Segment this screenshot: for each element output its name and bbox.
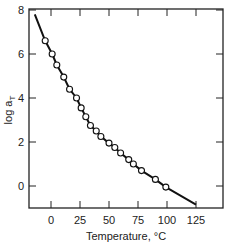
fitted-curve (35, 14, 196, 204)
y-tick-label: 6 (18, 48, 24, 60)
y-axis-label-subscript: T (8, 96, 17, 101)
x-tick-label: 25 (74, 214, 86, 226)
data-point-marker (49, 51, 55, 57)
y-tick-labels: 02468 (18, 4, 24, 192)
data-point-marker (163, 184, 169, 190)
data-point-marker (87, 123, 93, 129)
plot-frame (29, 9, 223, 208)
y-tick-label: 0 (18, 180, 24, 192)
data-point-marker (67, 86, 73, 92)
data-point-marker (152, 176, 158, 182)
y-axis-label-main: log a (2, 100, 14, 125)
x-tick-label: 75 (132, 214, 144, 226)
data-point-marker (74, 95, 80, 101)
x-axis-label: Temperature, °C (86, 230, 166, 242)
y-tick-label: 8 (18, 4, 24, 16)
y-axis-label: log aT (2, 96, 17, 125)
data-point-marker (118, 150, 124, 156)
x-tick-label: 0 (48, 214, 54, 226)
plot-border (29, 9, 223, 208)
data-point-marker (112, 145, 118, 151)
data-point-marker (138, 168, 144, 174)
data-point-marker (93, 128, 99, 134)
data-point-marker (61, 74, 67, 80)
data-markers (42, 38, 169, 190)
data-point-marker (130, 161, 136, 167)
y-tick-label: 2 (18, 136, 24, 148)
x-tick-label: 125 (187, 214, 205, 226)
data-point-marker (83, 114, 89, 120)
log-shift-factor-chart: 0255075100125 02468 Temperature, °C log … (0, 0, 229, 243)
x-tick-labels: 0255075100125 (48, 214, 205, 226)
data-point-marker (42, 38, 48, 44)
x-tick-label: 100 (158, 214, 176, 226)
data-point-marker (54, 62, 60, 68)
curve-line (35, 14, 196, 204)
axis-ticks (29, 9, 223, 208)
data-point-marker (106, 140, 112, 146)
data-point-marker (78, 105, 84, 111)
y-tick-label: 4 (18, 92, 24, 104)
data-point-marker (98, 134, 104, 140)
x-tick-label: 50 (103, 214, 115, 226)
